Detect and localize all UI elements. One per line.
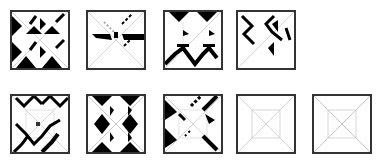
pattern-tile-r1-1 <box>10 10 70 70</box>
pattern-r2-4-graphic <box>238 96 294 152</box>
pattern-r1-2-graphic <box>88 12 144 68</box>
pattern-r2-2-graphic <box>88 96 144 152</box>
pattern-tile-r2-1 <box>10 94 70 154</box>
pattern-r1-3-graphic <box>165 12 221 68</box>
pattern-r1-1-graphic <box>12 12 68 68</box>
pattern-r2-1-graphic <box>12 96 68 152</box>
pattern-r1-4-graphic <box>238 12 294 68</box>
pattern-tile-r1-4 <box>236 10 296 70</box>
pattern-tile-r2-2 <box>86 94 146 154</box>
pattern-tile-r1-2 <box>86 10 146 70</box>
pattern-tile-r1-3 <box>163 10 223 70</box>
pattern-tile-r2-4 <box>236 94 296 154</box>
pattern-r2-5-graphic <box>314 96 370 152</box>
pattern-tile-r2-5 <box>312 94 372 154</box>
pattern-tile-r2-3 <box>163 94 223 154</box>
pattern-r2-3-graphic <box>165 96 221 152</box>
